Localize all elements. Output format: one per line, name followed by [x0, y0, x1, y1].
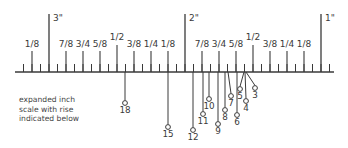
ruler-labels: 1/87/83/45/81/23/81/41/87/83/45/81/23/81… — [25, 13, 335, 49]
fraction-label: 3/4 — [76, 39, 91, 49]
pointer-leader-line — [240, 72, 244, 87]
pointer-number-label: 7 — [228, 98, 234, 108]
rise-pointer-15: 15 — [162, 72, 173, 139]
rise-pointer-9: 9 — [215, 72, 221, 136]
fraction-label: 3/8 — [263, 39, 278, 49]
rise-pointer-8: 8 — [222, 72, 228, 122]
fraction-label: 5/8 — [229, 39, 244, 49]
rise-pointer-10: 10 — [203, 72, 215, 111]
fraction-label: 1/4 — [280, 39, 295, 49]
pointer-number-label: 18 — [119, 105, 130, 115]
caption-line: expanded inch — [19, 95, 79, 105]
pointer-number-label: 11 — [197, 116, 208, 126]
pointer-number-label: 10 — [203, 101, 215, 111]
fraction-label: 7/8 — [195, 39, 210, 49]
fraction-label: 5/8 — [93, 39, 108, 49]
scale-caption: expanded inch scale with rise indicated … — [19, 95, 79, 124]
fraction-label: 1/8 — [161, 39, 176, 49]
pointer-number-label: 6 — [234, 117, 240, 127]
pointer-number-label: 3 — [252, 90, 258, 100]
fraction-label: 3/4 — [212, 39, 227, 49]
fraction-label: 1/8 — [297, 39, 312, 49]
rise-pointer-7: 7 — [228, 72, 234, 108]
caption-line: indicated below — [19, 114, 79, 124]
rise-pointer-12: 12 — [187, 72, 198, 142]
pointer-number-label: 8 — [222, 112, 228, 122]
rise-pointer-5: 5 — [237, 72, 244, 101]
pointer-leader-line — [228, 72, 231, 94]
fraction-label: 1/2 — [246, 32, 260, 42]
pointer-number-label: 12 — [187, 132, 198, 142]
caption-line: scale with rise — [19, 105, 79, 115]
fraction-label: 3/8 — [127, 39, 142, 49]
inch-label: 1" — [325, 13, 335, 23]
inch-label: 3" — [53, 13, 63, 23]
rise-pointer-18: 18 — [119, 72, 130, 115]
rise-pointer-3: 3 — [246, 72, 258, 100]
fraction-label: 1/4 — [144, 39, 159, 49]
pointer-leader-line — [245, 72, 246, 99]
pointer-number-label: 4 — [243, 103, 249, 113]
rise-pointers: 18151211109876543 — [119, 72, 257, 142]
fraction-label: 7/8 — [59, 39, 74, 49]
inch-label: 2" — [189, 13, 199, 23]
fraction-label: 1/2 — [110, 32, 124, 42]
pointer-number-label: 5 — [237, 91, 243, 101]
ruler-diagram: 1/87/83/45/81/23/81/41/87/83/45/81/23/81… — [0, 0, 348, 148]
rise-pointer-4: 4 — [243, 72, 249, 113]
pointer-leader-line — [246, 72, 255, 86]
fraction-label: 1/8 — [25, 39, 40, 49]
pointer-number-label: 9 — [215, 126, 221, 136]
ruler-svg: 1/87/83/45/81/23/81/41/87/83/45/81/23/81… — [0, 0, 348, 148]
pointer-number-label: 15 — [162, 129, 173, 139]
